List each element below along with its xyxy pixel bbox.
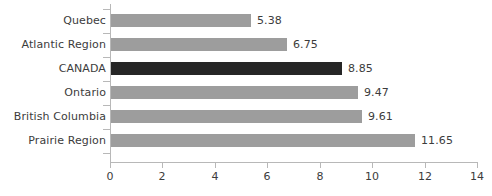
x-axis-tick (477, 162, 478, 168)
value-label: 9.61 (368, 105, 393, 129)
category-label: Atlantic Region (22, 33, 106, 57)
bar-row: Prairie Region 11.65 (0, 129, 492, 153)
y-axis-tick (103, 57, 110, 58)
bar-british-columbia (110, 110, 362, 123)
plot-area: Quebec 5.38 Atlantic Region 6.75 CANADA … (0, 0, 492, 196)
bar-prairie-region (110, 134, 415, 147)
x-axis-tick-label: 10 (357, 170, 387, 183)
bar-atlantic-region (110, 38, 287, 51)
x-axis-tick-label: 14 (462, 170, 492, 183)
y-axis-line (110, 4, 111, 162)
x-axis-tick-label: 2 (147, 170, 177, 183)
x-axis-tick (267, 162, 268, 168)
category-label: Prairie Region (28, 129, 106, 153)
bar-chart: Quebec 5.38 Atlantic Region 6.75 CANADA … (0, 0, 492, 196)
bar-row: Ontario 9.47 (0, 81, 492, 105)
y-axis-tick (103, 153, 110, 154)
x-axis-tick-label: 6 (252, 170, 282, 183)
y-axis-tick (103, 105, 110, 106)
bar-canada (110, 62, 342, 75)
bar-row: CANADA 8.85 (0, 57, 492, 81)
category-label: British Columbia (14, 105, 106, 129)
value-label: 5.38 (257, 9, 282, 33)
bar-row: British Columbia 9.61 (0, 105, 492, 129)
y-axis-tick (103, 9, 110, 10)
x-axis-line (110, 162, 478, 163)
x-axis-tick (425, 162, 426, 168)
x-axis-tick (110, 162, 111, 168)
bar-row: Atlantic Region 6.75 (0, 33, 492, 57)
bar-ontario (110, 86, 358, 99)
x-axis-tick (320, 162, 321, 168)
value-label: 9.47 (364, 81, 389, 105)
y-axis-tick (103, 33, 110, 34)
x-axis-tick-label: 0 (95, 170, 125, 183)
value-label: 6.75 (293, 33, 318, 57)
category-label: Quebec (63, 9, 106, 33)
value-label: 11.65 (421, 129, 453, 153)
x-axis-tick-label: 8 (305, 170, 335, 183)
category-label: Ontario (64, 81, 106, 105)
x-axis-tick-label: 12 (410, 170, 440, 183)
category-label: CANADA (59, 57, 106, 81)
x-axis-tick (215, 162, 216, 168)
value-label: 8.85 (348, 57, 373, 81)
bar-quebec (110, 14, 251, 27)
bar-row: Quebec 5.38 (0, 9, 492, 33)
y-axis-tick (103, 129, 110, 130)
y-axis-tick (103, 81, 110, 82)
x-axis-tick-label: 4 (200, 170, 230, 183)
x-axis-tick (162, 162, 163, 168)
x-axis-tick (372, 162, 373, 168)
